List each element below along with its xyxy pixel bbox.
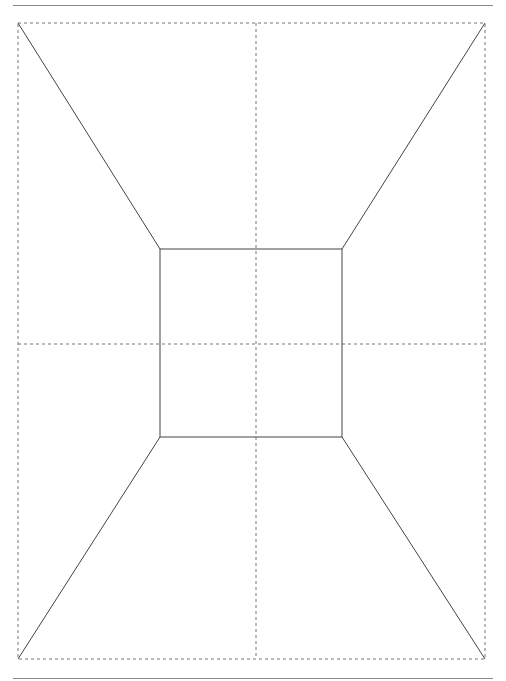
bottom-right-diagonal	[342, 437, 485, 659]
top-left-diagonal	[18, 23, 160, 249]
outer-dashed-frame	[18, 23, 485, 659]
bottom-rule	[13, 678, 493, 679]
inner-back-wall-rect	[160, 249, 342, 437]
bottom-left-diagonal	[18, 437, 160, 659]
perspective-room-diagram	[0, 0, 506, 681]
top-right-diagonal	[342, 23, 485, 249]
